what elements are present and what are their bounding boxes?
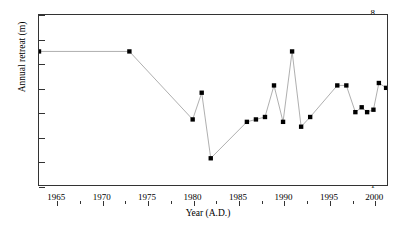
data-point-marker <box>353 110 357 114</box>
chart-figure: Annual retreat (m) 12345678 196519701975… <box>0 0 416 235</box>
x-axis-title: Year (A.D.) <box>0 208 416 218</box>
data-point-marker <box>281 120 285 124</box>
x-axis-tick-label: 1975 <box>127 192 167 202</box>
data-point-marker <box>377 81 381 85</box>
data-point-marker <box>190 117 194 121</box>
data-point-marker <box>245 120 249 124</box>
x-axis-minor-tick <box>125 201 126 204</box>
data-point-marker <box>365 110 369 114</box>
data-point-marker <box>263 115 267 119</box>
x-axis-minor-tick <box>262 201 263 204</box>
x-axis-minor-tick <box>216 201 217 204</box>
x-axis-tick <box>375 201 376 206</box>
x-axis-tick <box>194 201 195 206</box>
data-series-annual-retreat <box>39 15 387 185</box>
series-markers <box>39 49 387 160</box>
x-axis-tick <box>330 201 331 206</box>
data-point-marker <box>308 115 312 119</box>
x-axis-tick-label: 1980 <box>173 192 213 202</box>
x-axis-tick-label: 1985 <box>218 192 258 202</box>
x-axis-tick <box>239 201 240 206</box>
x-axis-tick <box>103 201 104 206</box>
x-axis-minor-tick <box>353 201 354 204</box>
data-point-marker <box>335 83 339 87</box>
x-axis-minor-tick <box>80 201 81 204</box>
plot-area <box>38 14 388 186</box>
x-axis-tick <box>284 201 285 206</box>
x-axis-tick-label: 1995 <box>309 192 349 202</box>
data-point-marker <box>290 49 294 53</box>
data-point-marker <box>272 83 276 87</box>
x-axis-tick-label: 2000 <box>354 192 394 202</box>
x-axis-tick-label: 1965 <box>36 192 76 202</box>
x-axis-tick <box>57 201 58 206</box>
data-point-marker <box>299 125 303 129</box>
data-point-marker <box>200 91 204 95</box>
x-axis-tick <box>148 201 149 206</box>
data-point-marker <box>360 105 364 109</box>
data-point-marker <box>39 49 41 53</box>
data-point-marker <box>127 49 131 53</box>
y-axis-tick <box>39 187 45 188</box>
y-axis-title: Annual retreat (m) <box>17 0 27 117</box>
data-point-marker <box>254 117 258 121</box>
x-axis-tick-label: 1990 <box>263 192 303 202</box>
x-axis-minor-tick <box>307 201 308 204</box>
series-line <box>39 51 386 158</box>
data-point-marker <box>344 83 348 87</box>
x-axis-tick-label: 1970 <box>82 192 122 202</box>
data-point-marker <box>209 156 213 160</box>
data-point-marker <box>371 108 375 112</box>
data-point-marker <box>384 86 387 90</box>
x-axis-minor-tick <box>171 201 172 204</box>
